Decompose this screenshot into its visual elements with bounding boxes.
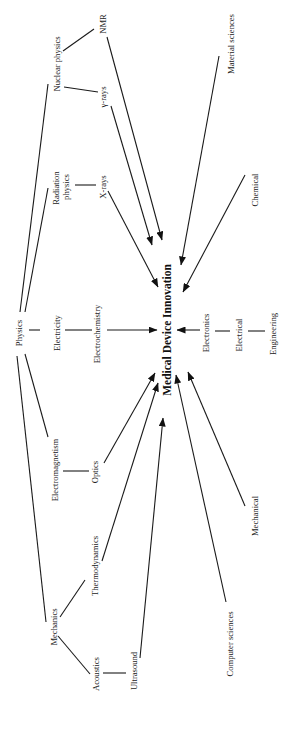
radiation-physics-line2: physics	[61, 173, 71, 199]
center-node-medical-device-innovation: Medical Device Innovation	[161, 264, 173, 396]
link-physics-electromag	[25, 354, 48, 437]
link-mechanics-acoustics	[58, 636, 90, 674]
node-material-sciences-visible: Material sciences	[226, 13, 236, 74]
link-physics-radiation	[25, 188, 48, 312]
link-nuclear-gamma	[64, 87, 98, 92]
arrow-connectors	[102, 37, 245, 658]
node-radiation-physics: Radiation physics	[51, 169, 71, 205]
link-mechanics-thermo	[60, 580, 85, 617]
arrow-nmr-to-mdi	[107, 37, 162, 240]
node-electromagnetism: Electromagnetism	[50, 438, 60, 501]
node-electrical: Electrical	[234, 318, 244, 352]
arrow-ultrasound-to-mdi	[140, 418, 163, 658]
node-mechanical: Mechanical	[250, 495, 260, 536]
radiation-physics-line1: Radiation	[51, 171, 61, 205]
node-nmr: NMR	[98, 14, 108, 34]
node-labels: Physics Nuclear physics NMR γ-rays Radia…	[14, 13, 278, 691]
link-nuclear-nmr	[63, 29, 94, 51]
node-computer-sciences: Computer sciences	[225, 611, 235, 677]
link-physics-mechanics	[17, 356, 46, 622]
node-thermodynamics: Thermodynamics	[90, 535, 100, 596]
node-x-rays: X-rays	[98, 175, 108, 199]
arrow-mechanical-to-mdi	[188, 372, 245, 506]
node-ultrasound: Ultrasound	[129, 651, 139, 690]
node-gamma-rays: γ-rays	[98, 86, 108, 109]
node-electronics: Electronics	[201, 313, 211, 352]
node-electricity: Electricity	[52, 314, 62, 350]
node-optics: Optics	[90, 460, 100, 483]
arrow-chemical-to-mdi	[183, 175, 245, 292]
node-nuclear-physics: Nuclear physics	[52, 36, 62, 92]
node-physics: Physics	[14, 319, 24, 346]
node-chemical: Chemical	[250, 173, 260, 207]
node-electrochemistry: Electrochemistry	[92, 304, 102, 363]
node-acoustics: Acoustics	[91, 656, 101, 691]
arrow-thermo-to-mdi	[102, 383, 158, 561]
influence-diagram: Physics Nuclear physics NMR γ-rays Radia…	[0, 0, 286, 734]
node-mechanics: Mechanics	[49, 608, 59, 646]
node-engineering: Engineering	[268, 312, 278, 355]
link-physics-nuclear	[20, 84, 48, 312]
arrow-compsci-to-mdi	[176, 375, 226, 602]
